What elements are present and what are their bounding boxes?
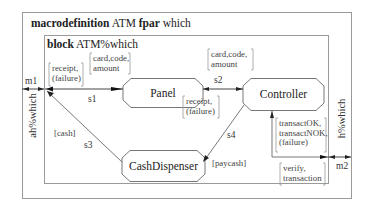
cashdispenser-label: CashDispenser — [129, 160, 198, 172]
panel-label: Panel — [150, 87, 176, 99]
block-title: block ATM%which — [47, 38, 138, 50]
signal-item: (failure) — [52, 74, 81, 84]
channel-m2-label: m2 — [336, 161, 348, 171]
signal-item: [paycash] — [212, 159, 246, 169]
gate-right-label: h%which — [336, 99, 347, 139]
channel-m1-label: m1 — [25, 76, 37, 86]
s3-signal-list: [cash] — [52, 129, 78, 139]
s2-signal-list-to-controller: card,code, amount — [209, 50, 249, 69]
macro-title: macrodefinition ATM fpar which — [31, 17, 191, 29]
s1-signal-list: card,code, amount — [91, 54, 131, 73]
cashdispenser-process[interactable]: CashDispenser — [122, 150, 205, 182]
block-name: ATM%which — [76, 38, 138, 50]
signal-item: [cash] — [54, 129, 76, 139]
block-keyword: block — [47, 38, 74, 50]
channel-s3-line — [47, 91, 122, 162]
signal-item: amount — [211, 60, 247, 70]
m2-signal-list-out: verify, transaction — [281, 164, 324, 183]
channel-s4-label: s4 — [227, 130, 235, 140]
m2-signal-list-in: transactOK, transactNOK, (failure) — [277, 119, 330, 148]
signal-item: (failure) — [279, 138, 328, 148]
gate-left-label: ah%which — [27, 93, 38, 137]
controller-label: Controller — [260, 88, 307, 100]
channel-s1-label: s1 — [88, 94, 96, 104]
signal-item: amount — [93, 64, 129, 74]
macro-keyword: macrodefinition — [31, 17, 109, 29]
macro-name: ATM — [112, 17, 136, 29]
s4-signal-list: [paycash] — [210, 159, 248, 169]
s2-signal-list-to-panel: receipt, (failure) — [184, 97, 217, 116]
channel-s2-label: s2 — [214, 75, 222, 85]
signal-item: (failure) — [186, 107, 215, 117]
signal-item: transaction — [283, 174, 322, 184]
channel-s3-label: s3 — [84, 140, 92, 150]
controller-process[interactable]: Controller — [243, 78, 324, 110]
m1-signal-list: receipt, (failure) — [50, 64, 83, 83]
macro-param: which — [163, 17, 191, 29]
macro-fpar-keyword: fpar — [139, 17, 160, 29]
